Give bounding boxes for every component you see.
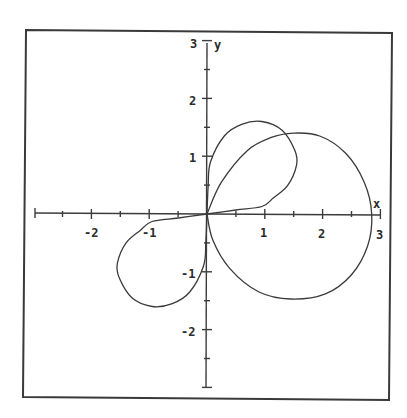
y-tick-label: 3 bbox=[190, 37, 197, 51]
x-tick-label: 2 bbox=[318, 227, 325, 241]
x-tick-label: 3 bbox=[376, 228, 383, 242]
y-tick-label: -1 bbox=[181, 267, 195, 281]
curve-large-loop bbox=[207, 133, 372, 299]
x-tick-label: 1 bbox=[260, 226, 267, 240]
polar-curve-plot: x y -2 -1 1 2 3 3 2 1 -1 -2 bbox=[0, 0, 407, 418]
curve-lower-left-small-loop bbox=[117, 214, 207, 307]
y-tick-label: 2 bbox=[189, 94, 196, 108]
x-axis-label: x bbox=[373, 197, 380, 211]
y-tick-label: 1 bbox=[189, 151, 196, 165]
x-tick-label: -2 bbox=[84, 226, 98, 240]
curve-upper-small-loop bbox=[207, 121, 297, 214]
y-tick-label: -2 bbox=[181, 325, 195, 339]
y-axis-label: y bbox=[214, 38, 221, 52]
x-tick-label: -1 bbox=[142, 226, 156, 240]
